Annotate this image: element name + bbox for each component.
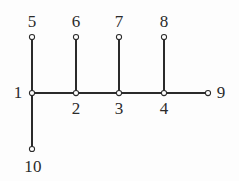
graph-node-6[interactable] (73, 34, 78, 39)
graph-node-8[interactable] (161, 34, 166, 39)
graph-node-7[interactable] (116, 34, 121, 39)
graph-node-3[interactable] (116, 90, 121, 95)
node-label-2: 2 (72, 100, 81, 117)
node-label-7: 7 (115, 13, 124, 30)
graph-node-1[interactable] (29, 90, 34, 95)
graph-node-10[interactable] (29, 146, 34, 151)
node-label-10: 10 (24, 158, 41, 175)
node-label-1: 1 (14, 84, 23, 101)
graph-node-9[interactable] (205, 90, 210, 95)
node-label-6: 6 (72, 13, 81, 30)
graph-node-4[interactable] (161, 90, 166, 95)
graph-node-2[interactable] (73, 90, 78, 95)
graph-node-5[interactable] (29, 34, 34, 39)
graph-diagram: 12345678910 (0, 0, 239, 181)
node-label-4: 4 (160, 100, 169, 117)
node-label-3: 3 (115, 100, 124, 117)
node-label-5: 5 (28, 13, 37, 30)
node-label-9: 9 (217, 84, 226, 101)
node-label-8: 8 (160, 13, 169, 30)
